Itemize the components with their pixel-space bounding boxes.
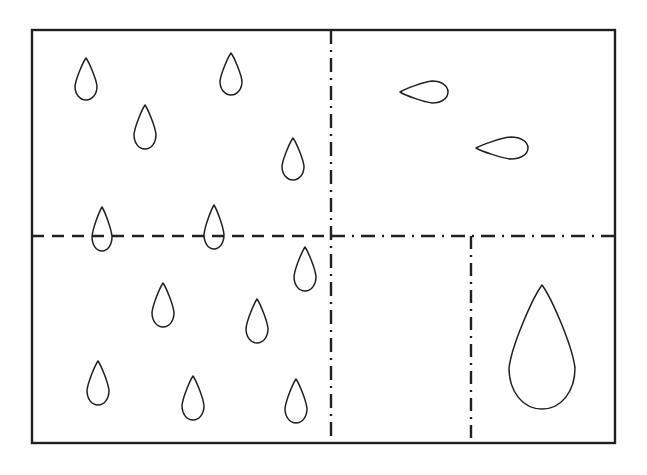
figure-canvas [0, 0, 647, 475]
figure-background [0, 0, 647, 475]
droplet-distribution-figure [0, 0, 647, 475]
